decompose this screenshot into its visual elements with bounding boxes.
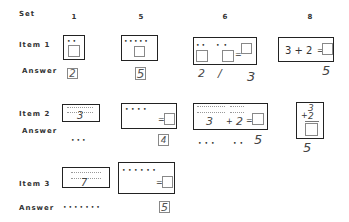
item1-set8-answer: 5 [322,64,330,77]
item2-set8-sum-line [305,121,319,122]
item2-set6-card: 3 + 2 = [193,103,268,130]
item1-set6-blank-result [241,43,252,54]
item1-set6-dots-right: •• [216,41,231,48]
item1-set8-blank [322,43,333,55]
row-label-item-1: Item 1 [19,41,50,49]
item2-set6-dotted-grid-a [197,106,225,113]
item2-set6-answer: 5 [254,133,262,146]
item1-set1-dots: •• [67,37,78,44]
column-header-set-1: 1 [64,13,84,21]
item1-set5-card: ••••• [121,35,158,61]
item2-set5-dots: •••• [125,105,149,112]
item1-set8-card: 3 + 2 = [278,37,334,62]
item1-set6-card: •• •• = [193,37,257,65]
item3-set5-dots: •••••• [122,166,158,173]
item2-set6-numeral-b: 2 [236,116,243,127]
item2-set8-plus: + [301,112,308,120]
item2-set6-answer-dots-a: ••• [198,139,218,146]
item1-set6-answer-a: 2 [198,68,205,79]
item2-set5-answer: 4 [158,134,169,146]
item2-set6-answer-dots-b: •• [233,139,246,146]
item3-set5-blank [162,176,173,188]
row-label-item-3: Item 3 [19,180,50,188]
item1-set6-dots-left: •• [196,41,207,48]
item2-set6-blank [252,113,264,125]
row-label-answer-1: Answer [22,67,57,75]
item2-set1-answer-dots: ••• [71,136,88,143]
item2-set6-dotted-grid-b [230,106,244,113]
item1-set5-blank [134,46,145,57]
row-label-answer-3: Answer [19,204,54,212]
item2-set6-numeral-a: 3 [206,116,213,127]
item2-set8-answer: 5 [303,141,311,154]
item2-set1-numeral: 3 [77,110,83,121]
item2-set5-card: •••• = [121,103,177,129]
column-header-set-8: 8 [300,13,320,21]
item1-set6-answer-c: 3 [247,70,255,83]
item2-set8-bottom: 2 [308,112,314,121]
item3-set5-card: •••••• = [118,162,175,194]
item1-set5-dots: ••••• [124,37,149,44]
item3-set1-numeral: 7 [81,177,87,188]
item1-set1-answer: 2 [67,68,78,79]
set-label: Set [19,10,35,18]
item1-set6-answer-b: / [218,68,222,79]
row-label-answer-2: Answer [22,127,57,135]
item1-set5-answer: 5 [135,67,146,80]
item3-set5-answer: 5 [159,201,170,213]
item3-set1-answer-dots: ••••••• [63,203,102,210]
item2-set6-plus: + [226,118,233,126]
item1-set6-blank-b [222,50,234,62]
column-header-set-5: 5 [131,13,151,21]
item3-set1-card: 7 [62,167,110,188]
item1-set8-expression: 3 + 2 [285,46,312,56]
column-header-set-6: 6 [215,13,235,21]
item2-set5-blank [164,113,175,125]
row-label-item-2: Item 2 [19,110,50,118]
item1-set6-blank-a [196,50,208,62]
item1-set1-blank [68,45,80,57]
item2-set1-card: 3 [62,104,100,122]
item2-set8-blank [305,123,318,136]
item1-set1-card: •• [63,35,85,60]
item2-set8-card: 3 + 2 [296,102,324,139]
